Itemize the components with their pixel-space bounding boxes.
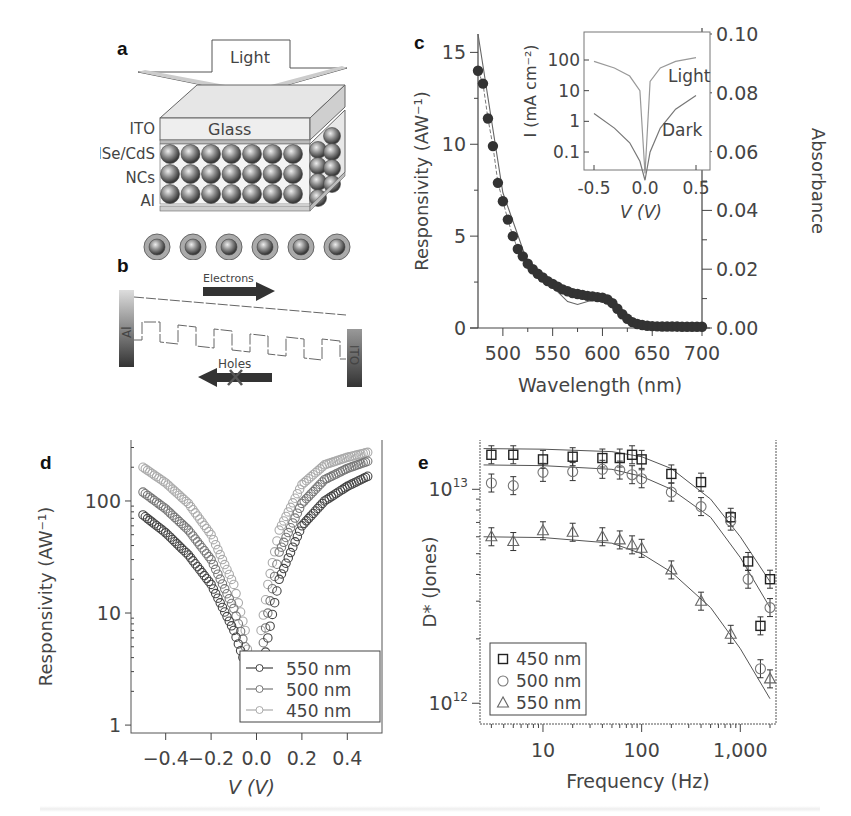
responsivity-point xyxy=(478,78,488,88)
x-tick-label: 700 xyxy=(684,342,720,364)
svg-text:10: 10 xyxy=(558,81,580,101)
y2-axis-label: Absorbance xyxy=(808,128,829,234)
legend-entry: 550 nm xyxy=(286,659,351,679)
layer-label-ito: ITO xyxy=(130,120,155,138)
inset-x-axis-label: V (V) xyxy=(620,202,662,222)
x-axis-label: Wavelength (nm) xyxy=(518,374,682,396)
legend-entry: 500 nm xyxy=(516,671,581,691)
glass-label: Glass xyxy=(208,120,251,139)
layer-label-cdse-cds: CdSe/CdS xyxy=(100,145,155,163)
y-tick-label: 5 xyxy=(454,225,466,247)
inset-iv-chart: 0.1110100-0.50.00.5V (V)I (mA cm⁻²)Light… xyxy=(521,32,711,222)
x-tick-label: 600 xyxy=(584,342,620,364)
x-tick-label: 0.4 xyxy=(332,747,362,769)
panel-d-responsivity-vs-voltage-chart: 110100−0.4−0.20.00.20.4Responsivity (AW⁻… xyxy=(30,440,430,810)
y2-tick-label: 0.10 xyxy=(716,23,758,45)
x-tick-label: −0.4 xyxy=(143,747,189,769)
responsivity-point xyxy=(483,113,493,123)
responsivity-point xyxy=(488,141,498,151)
x-axis-label: V (V) xyxy=(228,776,275,798)
svg-text:0.0: 0.0 xyxy=(631,178,658,198)
svg-text:0.1: 0.1 xyxy=(553,142,580,162)
inset-light-annotation: Light xyxy=(668,66,711,86)
y2-tick-label: 0.00 xyxy=(716,317,758,339)
x-tick-label: 550 xyxy=(535,342,571,364)
inset-dark-annotation: Dark xyxy=(662,120,702,140)
svg-text:1: 1 xyxy=(569,111,580,131)
y2-tick-label: 0.02 xyxy=(716,258,758,280)
responsivity-point xyxy=(503,214,513,224)
legend-entry: 450 nm xyxy=(516,649,581,669)
y-tick-label: 100 xyxy=(85,490,121,512)
fit-line xyxy=(484,449,770,582)
y-tick-label: 15 xyxy=(442,41,466,63)
y-tick-label: 1 xyxy=(109,714,121,736)
legend-entry: 500 nm xyxy=(286,680,351,700)
legend: 550 nm500 nm450 nm xyxy=(240,651,380,722)
svg-text:100: 100 xyxy=(548,50,580,70)
fit-line xyxy=(484,465,770,608)
legend-entry: 550 nm xyxy=(516,693,581,713)
y-tick-label: 10 xyxy=(97,602,121,624)
svg-text:-0.5: -0.5 xyxy=(577,178,610,198)
holes-label: Holes xyxy=(218,357,251,371)
responsivity-point xyxy=(508,231,518,241)
light-label: Light xyxy=(230,48,270,67)
svg-text:0.5: 0.5 xyxy=(682,178,709,198)
panel-e-detectivity-vs-frequency-chart: 10121013101001,000D* (Jones)Frequency (H… xyxy=(420,440,851,810)
x-tick-label: 1,000 xyxy=(713,739,767,761)
y-tick-label: 1012 xyxy=(429,690,468,714)
electrons-label: Electrons xyxy=(203,272,254,285)
x-tick-label: 0.0 xyxy=(241,747,271,769)
caption-fragment xyxy=(40,806,820,812)
x-tick-label: 0.2 xyxy=(287,747,317,769)
layer-label-ncs: NCs xyxy=(125,169,155,187)
panel-b-band-diagram: Al ITO Electrons Holes xyxy=(100,250,380,420)
y2-tick-label: 0.06 xyxy=(716,141,758,163)
panel-c-responsivity-chart: 0510155005506006507000.000.020.040.060.0… xyxy=(400,20,851,440)
panel-a-device-schematic: Light Glass ITO CdSe/CdS NCs Al xyxy=(100,30,380,260)
y-tick-label: 10 xyxy=(442,133,466,155)
legend: 450 nm500 nm550 nm xyxy=(490,643,586,715)
x-tick-label: −0.2 xyxy=(188,747,234,769)
y-tick-label: 0 xyxy=(454,317,466,339)
y-axis-label: D* (Jones) xyxy=(420,537,440,628)
ito-electrode-label: ITO xyxy=(347,345,361,365)
y2-tick-label: 0.08 xyxy=(716,82,758,104)
y-axis-label: Responsivity (AW⁻¹) xyxy=(35,507,56,686)
layer-label-al: Al xyxy=(141,192,155,210)
responsivity-point xyxy=(493,178,503,188)
al-electrode-label: Al xyxy=(120,326,134,338)
y2-tick-label: 0.04 xyxy=(716,199,758,221)
responsivity-point xyxy=(498,196,508,206)
x-tick-label: 10 xyxy=(531,739,555,761)
x-axis-label: Frequency (Hz) xyxy=(566,770,709,792)
y-axis-label: Responsivity (AW⁻¹) xyxy=(411,91,432,270)
x-tick-label: 500 xyxy=(485,342,521,364)
responsivity-point xyxy=(473,66,483,76)
legend-entry: 450 nm xyxy=(286,701,351,721)
y-tick-label: 1013 xyxy=(429,476,468,500)
responsivity-point xyxy=(697,322,707,332)
x-tick-label: 650 xyxy=(634,342,670,364)
inset-y-axis-label: I (mA cm⁻²) xyxy=(521,44,540,137)
x-tick-label: 100 xyxy=(624,739,660,761)
